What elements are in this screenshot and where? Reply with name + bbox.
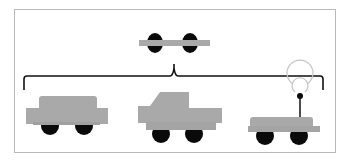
car-lower [33,122,100,125]
signal-wave-outer [287,60,313,84]
signal-wave-inner [292,78,308,92]
truck-cab [150,92,189,123]
inheritance-diagram [0,0,350,162]
truck-hood [138,106,152,123]
rc-vehicle [248,60,320,145]
car-roof [39,96,97,110]
car [26,96,108,135]
truck-bed [189,108,222,123]
truck-chassis [146,122,216,130]
pickup-truck [138,92,222,143]
car-body [26,108,108,124]
rc-chassis [248,126,320,132]
chassis-plate [139,40,210,46]
base-chassis [139,33,210,53]
hierarchy-bracket [24,64,323,90]
